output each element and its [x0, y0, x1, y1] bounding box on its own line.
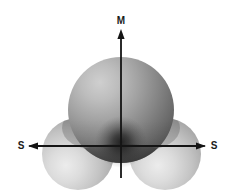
axis-label-s-right: S — [211, 140, 218, 151]
axis-label-m: M — [117, 15, 125, 26]
axis-label-s-left: S — [18, 140, 25, 151]
figure-canvas: M S S — [0, 0, 233, 194]
lobe-diagram-svg: M S S — [0, 0, 233, 194]
